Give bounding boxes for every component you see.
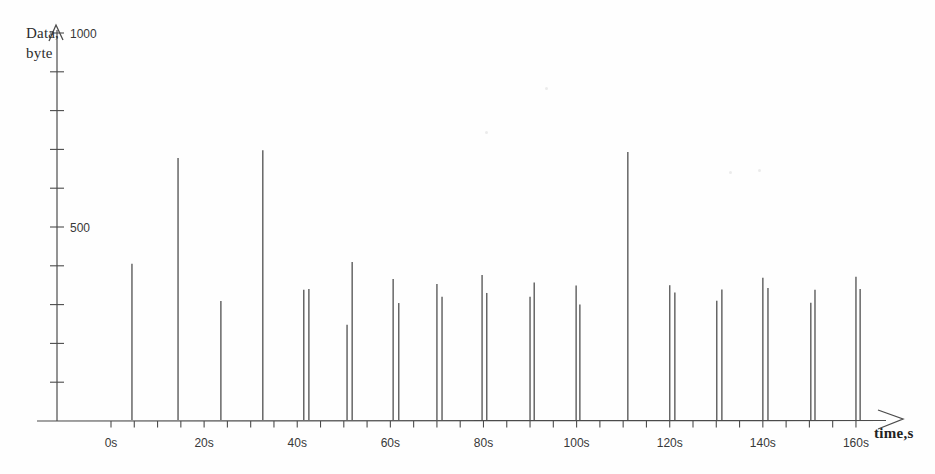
scanned-stem-chart-figure: 0s20s40s60s80s100s120s140s160s5001000 Da… — [0, 0, 935, 474]
scan-speck — [485, 131, 488, 134]
y-axis-title-line2: byte — [26, 43, 59, 63]
x-tick-label: 0s — [105, 436, 118, 450]
scan-speck — [758, 169, 761, 172]
x-tick-label: 80s — [474, 436, 493, 450]
x-tick-label: 100s — [564, 436, 590, 450]
y-axis-title: Data, byte — [26, 23, 59, 63]
y-axis-title-line1: Data, — [26, 23, 59, 43]
x-tick-label: 40s — [288, 436, 307, 450]
x-tick-label: 160s — [843, 436, 869, 450]
x-tick-label: 20s — [194, 436, 213, 450]
stem-chart-canvas: 0s20s40s60s80s100s120s140s160s5001000 — [0, 0, 935, 474]
x-tick-label: 140s — [750, 436, 776, 450]
x-axis — [37, 421, 886, 422]
scan-speck — [545, 87, 548, 90]
x-axis-title: time,s — [874, 425, 914, 442]
x-tick-label: 120s — [657, 436, 683, 450]
x-tick-label: 60s — [381, 436, 400, 450]
y-tick-label: 500 — [70, 221, 90, 235]
scan-speck — [729, 171, 732, 174]
y-tick-label: 1000 — [70, 27, 97, 41]
